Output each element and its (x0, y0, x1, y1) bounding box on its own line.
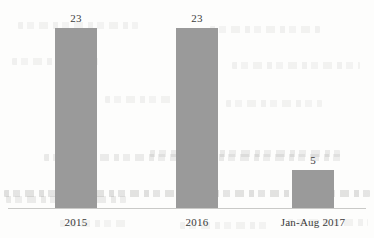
plot-area: 23 23 5 2015 2016 Jan-Aug 2017 (0, 0, 374, 238)
bar-value-label: 23 (45, 12, 107, 25)
bar-2015[interactable] (55, 28, 97, 209)
x-axis-label-2016: 2016 (166, 215, 228, 229)
x-axis-label-2015: 2015 (45, 215, 107, 229)
bar-chart-screenshot: 23 23 5 2015 2016 Jan-Aug 2017 (0, 0, 374, 238)
bar-value-label: 23 (166, 12, 228, 25)
x-axis-line (8, 208, 366, 209)
x-axis-label-jan-aug-2017: Jan-Aug 2017 (268, 215, 358, 229)
bar-jan-aug-2017[interactable] (292, 170, 334, 209)
bar-2016[interactable] (176, 28, 218, 209)
bar-value-label: 5 (282, 154, 344, 167)
